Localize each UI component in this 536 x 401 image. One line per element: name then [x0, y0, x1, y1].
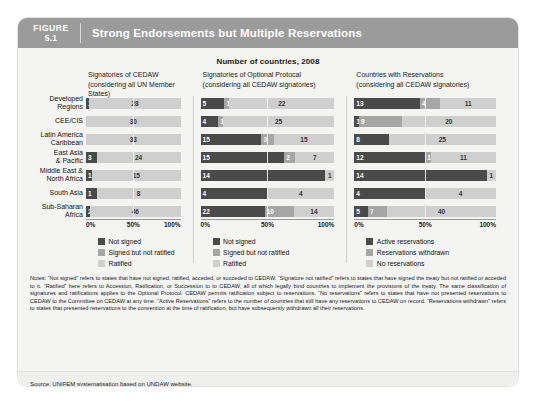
bar-value-label: 4 [201, 118, 207, 125]
gridline-50 [133, 116, 134, 127]
bar-segment: 4 [425, 188, 496, 199]
figure-notes: Notes: “Not signed” refers to states tha… [30, 275, 506, 313]
legend-swatch [366, 249, 373, 256]
legend-item: Signed but not ratified [98, 247, 193, 257]
chart-panel-2: Signatories of Optional Protocal(conside… [193, 70, 347, 269]
panel-heading-line2: (considering all CEDAW signatories) [356, 80, 508, 90]
axis-tick-50pct: 50% [419, 221, 432, 228]
legend-label: No reservations [377, 260, 425, 267]
gridline-50 [267, 98, 268, 109]
chart-row: 15315 [193, 130, 347, 148]
legend-item: Not signed [98, 236, 193, 246]
gridline-50 [425, 116, 426, 127]
bar-track: 44 [201, 188, 335, 199]
bar-value-label: 9 [359, 118, 365, 125]
bar-segment: 1 [86, 188, 97, 199]
bar-value-label: 11 [460, 154, 467, 161]
bar-segment: 7 [295, 152, 334, 163]
panel-heading-line1: Signatories of CEDAW [88, 70, 193, 80]
bar-value-label: 15 [300, 136, 307, 143]
legend-swatch [213, 260, 220, 267]
chart-super-title: Number of countries, 2008 [18, 57, 518, 66]
bar-value-label: 11 [465, 100, 472, 107]
gridline-50 [267, 134, 268, 145]
chart-row: East Asia & Pacific324 [24, 148, 193, 166]
chart-panels: Signatories of CEDAW(considering all UN … [18, 70, 518, 269]
x-axis: 0%50%100% [346, 220, 508, 231]
bar-track: 33 [86, 134, 181, 145]
bar-value-label: 7 [313, 154, 317, 161]
bar-segment: 1 [325, 170, 334, 181]
bar-track: 141 [354, 170, 496, 181]
legend-label: Signed but not ratified [223, 249, 289, 256]
bar-track: 324 [86, 152, 181, 163]
axis-spacer [346, 220, 354, 231]
gridline-50 [133, 206, 134, 217]
row-label: Latin America Caribbean [24, 131, 86, 147]
bar-track: 44 [354, 188, 496, 199]
chart-row: Sub-Saharan Africa246 [24, 202, 193, 220]
bar-segment: 4 [201, 188, 268, 199]
gridline-50 [267, 206, 268, 217]
axis-line [86, 219, 181, 220]
chart-row: Middle East & North Africa115 [24, 166, 193, 184]
figure-body: Number of countries, 2008 Signatories of… [18, 57, 518, 386]
bar-segment: 4 [201, 116, 219, 127]
gridline-50 [425, 152, 426, 163]
gridline-50 [425, 170, 426, 181]
chart-row: CEE/CIS30 [24, 112, 193, 130]
bar-value-label: 5 [201, 100, 207, 107]
bar-segment: 11 [431, 152, 496, 163]
legend-label: Ratified [109, 260, 132, 267]
bar-value-label: 24 [135, 154, 142, 161]
axis-tick-100pct: 100% [164, 221, 181, 228]
bar-value-label: 4 [299, 190, 303, 197]
bar-segment: 8 [354, 134, 388, 145]
axis-spacer [193, 220, 201, 231]
legend-swatch [98, 238, 105, 245]
axis-ticks: 0%50%100% [86, 220, 181, 231]
panel-rows: 5122412515315152714144221014 [193, 94, 347, 220]
bar-value-label: 25 [439, 136, 446, 143]
gridline-50 [267, 170, 268, 181]
legend-label: Reservations withdrawn [377, 249, 449, 256]
legend-swatch [213, 238, 220, 245]
chart-row: Developed Regions128 [24, 94, 193, 112]
bar-track: 4125 [201, 116, 335, 127]
legend-label: Not signed [109, 238, 142, 245]
bar-value-label: 20 [445, 118, 452, 125]
legend-swatch [366, 260, 373, 267]
bar-segment: 8 [97, 188, 181, 199]
legend-item: Not signed [213, 236, 347, 246]
bar-value-label: 4 [201, 190, 207, 197]
legend-swatch [213, 249, 220, 256]
bar-track: 825 [354, 134, 496, 145]
bar-value-label: 4 [459, 190, 463, 197]
bar-value-label: 3 [86, 154, 92, 161]
axis-tick-50pct: 50% [127, 221, 140, 228]
bar-segment: 15 [201, 152, 285, 163]
bar-segment: 5 [354, 206, 368, 217]
legend-item: Ratified [98, 258, 193, 268]
bar-value-label: 22 [278, 100, 285, 107]
axis-ticks: 0%50%100% [201, 220, 335, 231]
chart-row: South Asia18 [24, 184, 193, 202]
x-axis: 0%50%100% [24, 220, 193, 231]
bar-segment: 25 [389, 134, 496, 145]
axis-line [201, 219, 335, 220]
legend-swatch [98, 260, 105, 267]
chart-panel-3: Countries with Reservations(considering … [346, 70, 508, 269]
bar-track: 221014 [201, 206, 335, 217]
bar-segment: 22 [229, 98, 334, 109]
gridline-50 [267, 116, 268, 127]
chart-panel-1: Signatories of CEDAW(considering all UN … [24, 70, 193, 269]
bar-track: 141 [201, 170, 335, 181]
bar-segment: 25 [223, 116, 334, 127]
chart-row: 44 [193, 184, 347, 202]
bar-track: 115 [86, 170, 181, 181]
gridline-50 [425, 206, 426, 217]
row-label: Middle East & North Africa [24, 167, 86, 183]
legend-label: Active reservations [377, 238, 434, 245]
legend-label: Signed but not ratified [109, 249, 175, 256]
bar-segment: 11 [440, 98, 496, 109]
